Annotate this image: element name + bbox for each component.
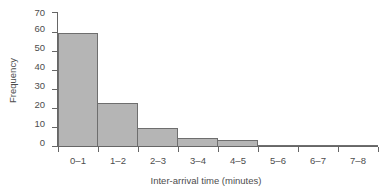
y-tick-label-40: 40 (34, 61, 45, 72)
x-tick-label-4-5: 4–5 (230, 155, 246, 166)
x-tick-label-5-6: 5–6 (270, 155, 286, 166)
y-tick-label-50: 50 (34, 42, 45, 53)
bars-group (59, 34, 378, 147)
x-axis-title: Inter-arrival time (minutes) (151, 175, 262, 186)
x-tick-label-6-7: 6–7 (310, 155, 326, 166)
bar-4-5 (218, 141, 258, 147)
bar-2-3 (138, 129, 178, 147)
y-axis-ticks (52, 13, 57, 147)
x-tick-label-2-3: 2–3 (150, 155, 166, 166)
y-tick-label-30: 30 (34, 80, 45, 91)
y-tick-label-70: 70 (34, 7, 45, 18)
bar-1-2 (98, 104, 138, 147)
x-tick-label-0-1: 0–1 (70, 155, 86, 166)
histogram-plot: Frequency 0 10 20 30 40 50 60 70 (0, 0, 385, 193)
bar-3-4 (178, 139, 218, 147)
y-tick-label-0: 0 (40, 137, 45, 148)
y-axis-title: Frequency (7, 58, 18, 103)
histogram-figure: Frequency 0 10 20 30 40 50 60 70 (0, 0, 385, 193)
x-axis-ticks (59, 147, 379, 152)
bar-0-1 (59, 34, 98, 147)
y-tick-label-20: 20 (34, 99, 45, 110)
x-tick-label-7-8: 7–8 (350, 155, 366, 166)
y-tick-label-10: 10 (34, 118, 45, 129)
y-tick-label-60: 60 (34, 23, 45, 34)
x-tick-label-3-4: 3–4 (190, 155, 206, 166)
x-tick-label-1-2: 1–2 (110, 155, 126, 166)
